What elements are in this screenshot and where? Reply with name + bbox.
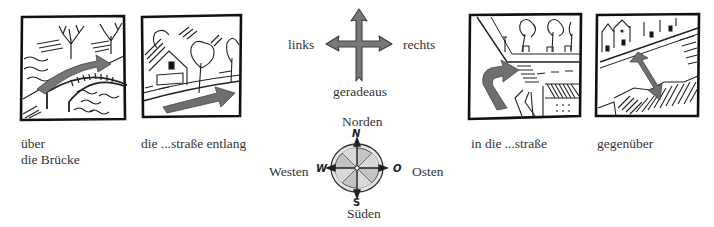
label-into-street: in die ...straße bbox=[471, 136, 547, 152]
compass-east-label: Osten bbox=[412, 164, 444, 180]
compass-rose bbox=[315, 130, 399, 206]
street-illustration bbox=[139, 13, 243, 119]
four-way-arrow-icon bbox=[324, 7, 394, 83]
panel-along-street bbox=[139, 13, 243, 119]
label-along-street: die ...straße entlang bbox=[141, 136, 246, 152]
compass-north-label: Norden bbox=[342, 114, 383, 130]
bridge-illustration bbox=[19, 14, 127, 122]
compass-west-label: Westen bbox=[269, 164, 308, 180]
panel-bridge bbox=[19, 14, 127, 122]
label-opposite: gegenüber bbox=[597, 136, 653, 152]
panel-opposite bbox=[594, 12, 702, 120]
label-over-bridge-line2: die Brücke bbox=[21, 152, 80, 168]
direction-straight-label: geradeaus bbox=[333, 84, 387, 100]
compass-letter-w: W bbox=[316, 163, 327, 174]
compass-letter-o: O bbox=[393, 163, 402, 174]
label-over-bridge-line1: über bbox=[21, 136, 45, 152]
compass-south-label: Süden bbox=[347, 206, 381, 222]
turn-into-street-illustration bbox=[467, 12, 583, 122]
compass-letter-s: S bbox=[353, 197, 360, 208]
panel-into-street bbox=[467, 12, 583, 122]
compass-letter-n: N bbox=[352, 128, 360, 139]
direction-right-label: rechts bbox=[403, 37, 435, 53]
direction-left-label: links bbox=[288, 37, 314, 53]
direction-arrows bbox=[324, 7, 394, 83]
compass-rose-icon bbox=[315, 130, 399, 206]
opposite-illustration bbox=[594, 12, 702, 120]
